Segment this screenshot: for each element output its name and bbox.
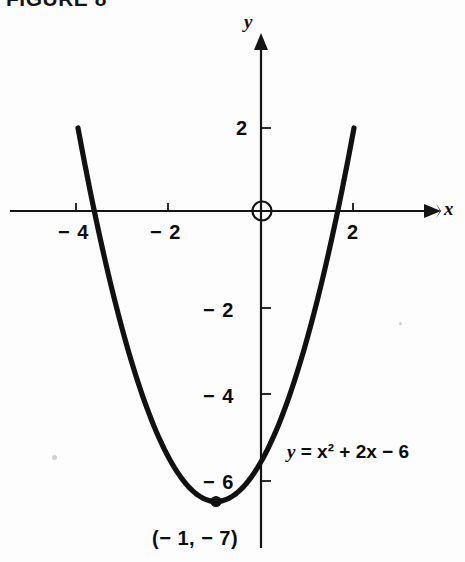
vertex-coordinate-label: (− 1, − 7)	[152, 527, 238, 550]
y-tick-label--4: − 4	[203, 385, 234, 408]
x-tick-label--2: − 2	[150, 221, 181, 244]
scan-speck	[399, 322, 402, 325]
figure-container: FIGURE 8 x y − 4 − 2 2 2 − 2 − 4 − 6	[0, 0, 465, 562]
y-tick-label--2: − 2	[203, 299, 234, 322]
y-tick-label-2: 2	[236, 117, 247, 140]
x-tick-label--4: − 4	[58, 221, 89, 244]
equation-body: = x² + 2x − 6	[295, 441, 409, 462]
x-axis-arrowhead-solid	[424, 204, 441, 218]
x-tick-label-2: 2	[347, 221, 358, 244]
vertex-point	[210, 496, 221, 507]
scan-speck	[52, 455, 57, 460]
y-axis-arrowhead	[254, 33, 268, 50]
y-axis-label: y	[244, 11, 252, 33]
y-tick-label--6: − 6	[203, 471, 234, 494]
x-axis-label: x	[444, 198, 454, 220]
equation-annotation: y = x² + 2x − 6	[287, 441, 409, 463]
